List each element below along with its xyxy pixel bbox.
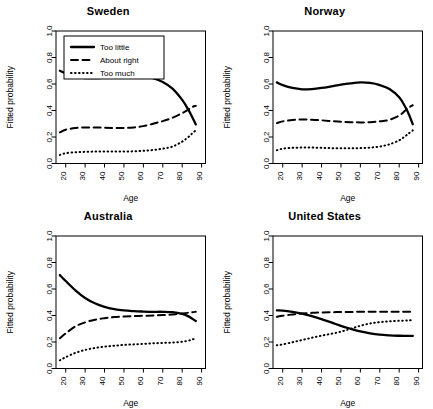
x-tick-label: 80 — [175, 171, 184, 180]
y-tick-label: 0.6 — [45, 78, 54, 90]
x-tick-label: 20 — [275, 375, 284, 384]
x-tick-label: 60 — [353, 171, 362, 180]
panel-australia: Australia20304050607080900.00.20.40.60.8… — [0, 205, 217, 409]
x-tick-label: 30 — [295, 171, 304, 180]
x-tick-label: 70 — [372, 171, 381, 180]
panel-title: Norway — [217, 5, 433, 17]
x-axis-label: Age — [123, 397, 138, 407]
y-tick-label: 0.2 — [45, 131, 54, 143]
x-tick-label: 50 — [117, 375, 126, 384]
x-tick-label: 50 — [333, 171, 342, 180]
y-tick-label: 0.0 — [45, 362, 54, 374]
panel-sweden: Sweden20304050607080900.00.20.40.60.81.0… — [0, 0, 217, 205]
y-tick-label: 0.4 — [45, 104, 54, 116]
panel-norway: Norway20304050607080900.00.20.40.60.81.0… — [217, 0, 433, 205]
panel-title: United States — [217, 210, 433, 222]
y-axis-label: Fitted probability — [5, 65, 15, 128]
y-axis-label: Fitted probability — [222, 65, 232, 128]
series-line-too-much — [276, 130, 412, 150]
x-tick-label: 40 — [314, 171, 323, 180]
panel-title: Australia — [0, 210, 217, 222]
x-tick-label: 40 — [314, 375, 323, 384]
x-tick-label: 50 — [117, 171, 126, 180]
y-tick-label: 0.2 — [262, 131, 271, 143]
plot-frame — [273, 236, 423, 369]
y-tick-label: 0.8 — [45, 51, 54, 63]
plot-frame — [56, 236, 206, 369]
x-axis-label: Age — [123, 193, 138, 203]
x-tick-label: 40 — [98, 171, 107, 180]
y-tick-label: 1.0 — [262, 229, 271, 241]
y-tick-label: 0.8 — [262, 256, 271, 268]
plot-area: 20304050607080900.00.20.40.60.81.0AgeFit… — [0, 0, 217, 205]
x-tick-label: 70 — [156, 171, 165, 180]
series-line-too-little — [276, 310, 412, 335]
series-line-about-right — [60, 311, 196, 337]
x-tick-label: 30 — [295, 375, 304, 384]
y-tick-label: 0.6 — [45, 282, 54, 294]
y-tick-label: 0.2 — [45, 335, 54, 347]
series-line-too-much — [276, 320, 412, 345]
y-axis-label: Fitted probability — [222, 270, 232, 333]
x-axis-label: Age — [340, 193, 355, 203]
y-tick-label: 0.2 — [262, 335, 271, 347]
y-tick-label: 0.8 — [262, 51, 271, 63]
plot-area: 20304050607080900.00.20.40.60.81.0AgeFit… — [217, 205, 433, 409]
legend-label: Too much — [100, 69, 135, 78]
x-tick-label: 60 — [136, 171, 145, 180]
series-line-too-much — [60, 130, 196, 155]
x-tick-label: 60 — [136, 375, 145, 384]
x-tick-label: 90 — [411, 375, 420, 384]
y-tick-label: 1.0 — [45, 229, 54, 241]
x-tick-label: 30 — [78, 375, 87, 384]
x-tick-label: 80 — [392, 375, 401, 384]
y-tick-label: 0.6 — [262, 78, 271, 90]
x-tick-label: 60 — [353, 375, 362, 384]
y-axis-label: Fitted probability — [5, 270, 15, 333]
plot-area: 20304050607080900.00.20.40.60.81.0AgeFit… — [217, 0, 433, 205]
x-tick-label: 90 — [411, 171, 420, 180]
x-tick-label: 90 — [195, 171, 204, 180]
y-tick-label: 1.0 — [262, 25, 271, 37]
x-tick-label: 70 — [156, 375, 165, 384]
panel-united-states: United States20304050607080900.00.20.40.… — [217, 205, 433, 409]
legend-label: About right — [100, 56, 139, 65]
series-line-about-right — [60, 106, 196, 133]
y-tick-label: 0.4 — [262, 309, 271, 321]
x-tick-label: 80 — [175, 375, 184, 384]
x-tick-label: 20 — [59, 375, 68, 384]
y-tick-label: 0.0 — [262, 157, 271, 169]
x-tick-label: 80 — [392, 171, 401, 180]
legend-label: Too little — [100, 43, 130, 52]
x-tick-label: 70 — [372, 375, 381, 384]
panel-title: Sweden — [0, 5, 217, 17]
x-tick-label: 40 — [98, 375, 107, 384]
y-tick-label: 0.4 — [45, 309, 54, 321]
y-tick-label: 1.0 — [45, 25, 54, 37]
x-tick-label: 30 — [78, 171, 87, 180]
y-tick-label: 0.0 — [262, 362, 271, 374]
plot-area: 20304050607080900.00.20.40.60.81.0AgeFit… — [0, 205, 217, 409]
x-axis-label: Age — [340, 397, 355, 407]
x-tick-label: 90 — [195, 375, 204, 384]
figure-panel-grid: Sweden20304050607080900.00.20.40.60.81.0… — [0, 0, 433, 409]
x-tick-label: 20 — [59, 171, 68, 180]
legend: Too littleAbout rightToo much — [64, 36, 164, 79]
series-line-too-much — [60, 338, 196, 360]
y-tick-label: 0.8 — [45, 256, 54, 268]
y-tick-label: 0.6 — [262, 282, 271, 294]
series-line-about-right — [276, 105, 412, 123]
x-tick-label: 20 — [275, 171, 284, 180]
y-tick-label: 0.0 — [45, 157, 54, 169]
x-tick-label: 50 — [333, 375, 342, 384]
y-tick-label: 0.4 — [262, 104, 271, 116]
